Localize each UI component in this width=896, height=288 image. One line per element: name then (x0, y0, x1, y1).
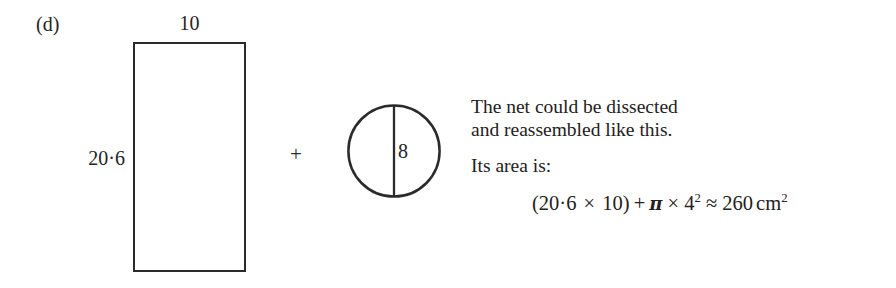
plus-operator: + (283, 141, 309, 167)
part-label: (d) (36, 13, 59, 35)
circle-svg (347, 104, 441, 198)
formula-result: 260 (722, 192, 753, 214)
rectangle-shape (133, 42, 246, 272)
formula-radius: 4 (684, 192, 694, 214)
formula-open-paren: ( (532, 192, 539, 214)
worked-solution-figure: (d) 10 20·6 + 8 The net could be dissect… (0, 0, 896, 288)
rectangle-top-dimension-label: 10 (133, 12, 246, 34)
explanation-line-3: Its area is: (471, 154, 891, 177)
explanation-line-2: and reassembled like this. (471, 118, 891, 141)
explanation-text-block: The net could be dissected and reassembl… (471, 95, 891, 217)
area-formula: (20·6 × 10) + π × 42 ≈ 260cm2 (471, 190, 891, 217)
formula-pi-symbol: π (649, 193, 662, 214)
formula-times-1: × (583, 192, 597, 214)
formula-plus: + (634, 192, 646, 214)
formula-width: 10 (602, 192, 623, 214)
formula-approx-symbol: ≈ (705, 192, 718, 214)
circle-shape (347, 104, 441, 198)
formula-times-2: × (667, 192, 681, 214)
formula-length: 20·6 (539, 192, 577, 214)
formula-close-paren: ) (623, 192, 630, 214)
explanation-line-1: The net could be dissected (471, 95, 891, 118)
circle-diameter-label: 8 (398, 140, 408, 162)
rectangle-side-dimension-label: 20·6 (45, 147, 125, 169)
formula-unit: cm (756, 192, 781, 214)
paragraph-spacer (471, 141, 891, 154)
formula-unit-exponent: 2 (781, 191, 787, 205)
